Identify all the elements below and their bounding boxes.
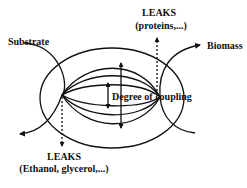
coupling-diagram: Substrate Biomass Degree of coupling LEA… <box>0 0 247 188</box>
degree-of-coupling-label: Degree of coupling <box>112 91 192 102</box>
substrate-flow-arrow <box>20 43 65 134</box>
leaks-top-detail: (proteins,...) <box>135 20 186 32</box>
leaks-top-title: LEAKS <box>142 7 176 18</box>
biomass-lower-arc <box>160 97 195 133</box>
leaks-bottom-detail: (Ethanol, glycerol,...) <box>19 163 108 175</box>
biomass-flow-arrow <box>160 45 200 97</box>
leaks-bottom-title: LEAKS <box>47 151 81 162</box>
substrate-label: Substrate <box>8 36 50 47</box>
biomass-label: Biomass <box>207 40 243 51</box>
